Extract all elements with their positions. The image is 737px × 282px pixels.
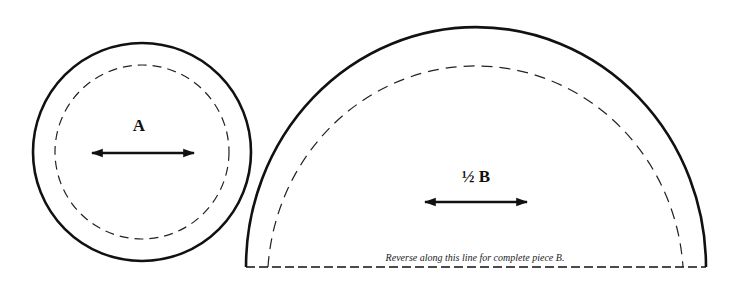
piece-b-cut-line (246, 27, 706, 267)
piece-a: A (33, 43, 251, 261)
piece-b-fold-note: Reverse along this line for complete pie… (385, 252, 565, 263)
piece-a-label: A (133, 116, 146, 135)
piece-b-label: ½ B (462, 167, 490, 186)
piece-b: ½ B Reverse along this line for complete… (246, 27, 706, 267)
pattern-diagram: A ½ B Reverse along this line for comple… (0, 0, 737, 282)
